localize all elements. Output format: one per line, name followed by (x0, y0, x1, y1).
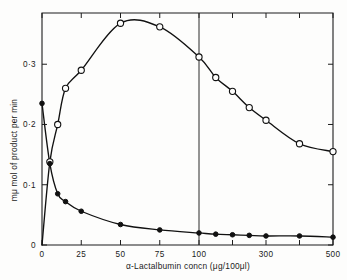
data-point-filled (197, 231, 202, 236)
data-point-filled (230, 232, 235, 237)
series-curve-open-circle (42, 20, 333, 245)
data-point-open (296, 141, 302, 147)
plot-frame (42, 13, 333, 245)
data-point-filled (331, 235, 336, 240)
x-tick-label: 50 (116, 250, 126, 259)
y-tick-label: 0·3 (23, 60, 36, 69)
data-point-filled (40, 101, 45, 106)
x-tick-label: 75 (155, 250, 165, 259)
data-point-open (117, 20, 123, 26)
data-point-open (157, 24, 163, 30)
x-tick-label: 300 (259, 250, 274, 259)
data-point-filled (157, 228, 162, 233)
y-tick-label: 0·1 (23, 181, 36, 190)
data-point-filled (55, 191, 60, 196)
data-point-open (246, 105, 252, 111)
x-tick-label: 25 (76, 250, 86, 259)
data-curves (42, 20, 333, 245)
x-tick-label: 0 (40, 250, 45, 259)
data-point-filled (297, 234, 302, 239)
data-point-open (55, 121, 61, 127)
y-tick-label: 0·2 (23, 120, 36, 129)
data-point-filled (79, 209, 84, 214)
axis-ticks (42, 13, 333, 245)
y-tick-labels: 00·10·20·3 (23, 60, 36, 250)
chart-canvas: 0255075100300500 00·10·20·3 α-Lactalbumi… (0, 0, 347, 280)
data-point-open (263, 117, 269, 123)
y-axis-title: mμ mol of product per min (9, 99, 19, 202)
data-point-open (196, 54, 202, 60)
x-tick-label: 500 (326, 250, 341, 259)
data-markers (40, 20, 336, 239)
series-curve-filled-circle (42, 103, 333, 237)
data-point-open (62, 85, 68, 91)
data-point-open (330, 149, 336, 155)
data-point-filled (247, 233, 252, 238)
data-point-filled (63, 199, 68, 204)
data-point-filled (118, 222, 123, 227)
x-tick-label: 100 (192, 250, 207, 259)
data-point-open (213, 74, 219, 80)
plot-box (42, 13, 333, 245)
data-point-filled (264, 234, 269, 239)
data-point-open (78, 67, 84, 73)
x-axis-title: α-Lactalbumin concn (μg/100μl) (126, 261, 250, 271)
x-tick-labels: 0255075100300500 (40, 250, 341, 259)
y-tick-label: 0 (31, 241, 36, 250)
figure-container: 0255075100300500 00·10·20·3 α-Lactalbumi… (0, 0, 347, 280)
data-point-filled (213, 232, 218, 237)
data-point-open (229, 88, 235, 94)
data-point-filled (48, 161, 53, 166)
